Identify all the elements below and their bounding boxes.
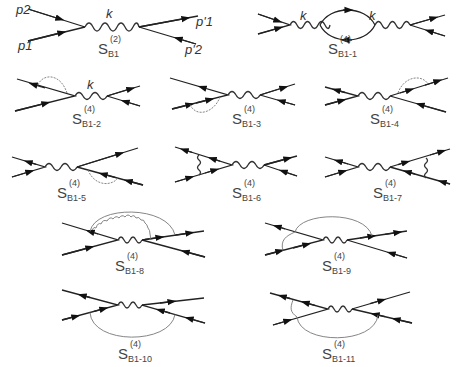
label-k: k — [106, 6, 113, 21]
caption-subscript: B1-10 — [128, 354, 152, 364]
caption-s-b1-11: S(4)B1-11 — [322, 345, 355, 362]
caption-order: (4) — [127, 251, 138, 261]
label-p2-text: p2 — [16, 2, 30, 17]
caption-subscript: B1 — [108, 49, 119, 59]
caption-symbol: S — [232, 184, 242, 201]
caption-subscript: B1-1 — [338, 49, 357, 59]
diagram-s-b1-11 — [270, 292, 412, 338]
caption-order: (4) — [69, 178, 80, 188]
caption-order: (4) — [382, 104, 393, 114]
caption-symbol: S — [98, 40, 108, 57]
caption-subscript: B1-9 — [332, 266, 351, 276]
label-p2-prime-text: p'2 — [185, 42, 202, 57]
photon-propagator-k — [85, 23, 139, 31]
caption-s-b1-9: S(4)B1-9 — [322, 257, 351, 274]
caption-symbol: S — [328, 40, 338, 57]
caption-order: (4) — [334, 339, 345, 349]
diagram-s-b1-2 — [15, 77, 140, 111]
arrow-icon — [28, 33, 62, 42]
caption-symbol: S — [370, 110, 380, 127]
arrow-icon — [28, 9, 60, 19]
caption-subscript: B1-11 — [332, 354, 355, 364]
caption-order: (2) — [110, 34, 121, 44]
label-p1-prime-text: p'1 — [196, 14, 213, 29]
label-k-text: k — [369, 8, 376, 23]
caption-s-b1-8: S(4)B1-8 — [115, 257, 144, 274]
caption-order: (4) — [340, 34, 351, 44]
caption-order: (4) — [334, 251, 345, 261]
caption-subscript: B1-2 — [82, 119, 101, 129]
label-p2-prime: p'2 — [185, 42, 202, 57]
label-p1-prime: p'1 — [196, 14, 213, 29]
caption-subscript: B1-4 — [380, 119, 399, 129]
diagram-s-b1-6 — [175, 147, 297, 182]
caption-s-b1: S(2)B1 — [98, 40, 119, 57]
diagram-s-b1-10 — [62, 290, 205, 337]
caption-symbol: S — [115, 257, 125, 274]
caption-symbol: S — [373, 184, 383, 201]
caption-s-b1-5: S(4)B1-5 — [57, 184, 86, 201]
caption-s-b1-6: S(4)B1-6 — [232, 184, 261, 201]
label-k-b1-2: k — [87, 77, 94, 92]
caption-order: (4) — [84, 104, 95, 114]
caption-order: (4) — [244, 178, 255, 188]
caption-symbol: S — [232, 110, 242, 127]
arrow-icon — [139, 18, 186, 27]
caption-subscript: B1-7 — [383, 193, 402, 203]
label-k-text: k — [300, 8, 307, 23]
caption-symbol: S — [72, 110, 82, 127]
caption-subscript: B1-6 — [242, 193, 261, 203]
caption-subscript: B1-8 — [125, 266, 144, 276]
caption-symbol: S — [118, 345, 128, 362]
label-p2: p2 — [16, 2, 30, 17]
caption-order: (4) — [244, 104, 255, 114]
caption-s-b1-7: S(4)B1-7 — [373, 184, 402, 201]
caption-s-b1-3: S(4)B1-3 — [232, 110, 261, 127]
caption-order: (4) — [130, 339, 141, 349]
caption-symbol: S — [322, 345, 332, 362]
caption-s-b1-1: S(4)B1-1 — [328, 40, 357, 57]
diagram-s-b1-3 — [170, 78, 295, 112]
label-k-text: k — [87, 77, 94, 92]
caption-subscript: B1-5 — [67, 193, 86, 203]
diagram-s-b1-1 — [258, 10, 445, 40]
caption-s-b1-4: S(4)B1-4 — [370, 110, 399, 127]
caption-symbol: S — [57, 184, 67, 201]
caption-s-b1-10: S(4)B1-10 — [118, 345, 152, 362]
caption-subscript: B1-3 — [242, 119, 261, 129]
label-p1-text: p1 — [18, 38, 32, 53]
label-k-text: k — [106, 6, 113, 21]
caption-s-b1-2: S(4)B1-2 — [72, 110, 101, 127]
caption-symbol: S — [322, 257, 332, 274]
label-k-right: k — [369, 8, 376, 23]
caption-order: (4) — [385, 178, 396, 188]
label-k-left: k — [300, 8, 307, 23]
label-p1: p1 — [18, 38, 32, 53]
